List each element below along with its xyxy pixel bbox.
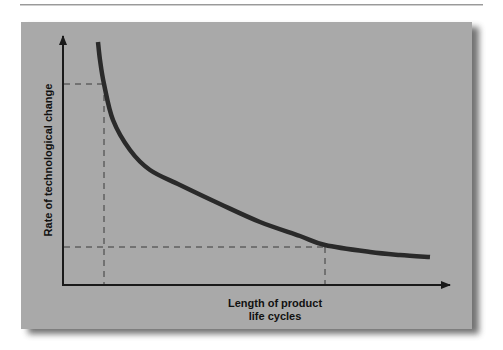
x-axis-label: Length of product life cycles — [228, 297, 322, 323]
x-axis-label-line-2: life cycles — [228, 310, 322, 323]
y-axis-label: Rate of technological change — [42, 84, 54, 237]
x-axis-label-line-1: Length of product — [228, 297, 322, 310]
decay-curve — [98, 42, 430, 257]
reference-lines — [64, 84, 325, 284]
